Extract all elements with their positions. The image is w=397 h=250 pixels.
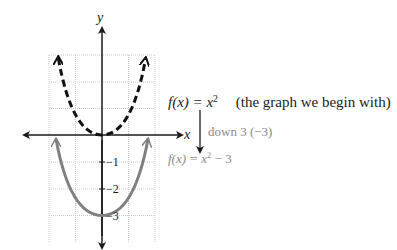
y-tick-minus-3: −3 bbox=[106, 209, 119, 224]
result-function-text: f(x) = x bbox=[168, 151, 207, 166]
original-note: (the graph we begin with) bbox=[236, 94, 391, 110]
y-axis-label: y bbox=[97, 10, 103, 26]
original-exponent: 2 bbox=[213, 93, 218, 104]
transformation-label: down 3 (−3) bbox=[208, 125, 272, 138]
x-axis-label: x bbox=[184, 127, 190, 143]
original-function-text: f(x) = x bbox=[168, 94, 213, 110]
result-function-label: f(x) = x2 − 3 bbox=[168, 152, 232, 165]
result-suffix: − 3 bbox=[211, 151, 231, 166]
graph-canvas bbox=[0, 0, 397, 250]
y-tick-minus-2: −2 bbox=[106, 182, 119, 197]
original-function-label: f(x) = x2 (the graph we begin with) bbox=[168, 95, 391, 110]
y-tick-minus-1: −1 bbox=[106, 155, 119, 170]
